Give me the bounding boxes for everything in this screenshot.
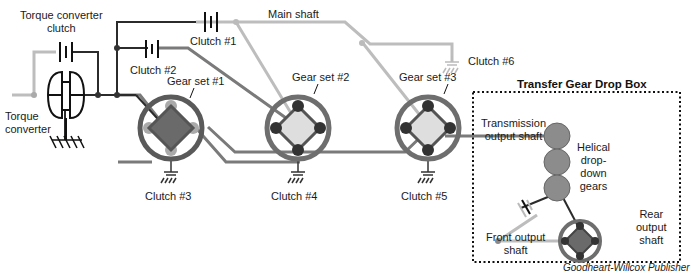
rear-output-gear-set: [560, 221, 600, 261]
torque-converter-label: Torque converter: [5, 110, 51, 136]
torque-converter-symbol: [48, 72, 84, 148]
helical-drop-down-gears: [544, 123, 570, 201]
gear-set-1-label: Gear set #1: [167, 75, 224, 88]
ground-symbols: [161, 161, 435, 183]
front-output-shaft-label: Front output shaft: [486, 231, 545, 257]
rear-output-shaft-label: Rear output shaft: [636, 208, 667, 247]
clutch-5-label: Clutch #5: [401, 190, 447, 203]
transmission-output-shaft-label: Transmission output shaft: [481, 117, 546, 143]
helical-gears-label: Helical drop- down gears: [577, 141, 610, 193]
clutch-6-label: Clutch #6: [468, 55, 514, 68]
clutch-3-label: Clutch #3: [145, 190, 191, 203]
transfer-box-title: Transfer Gear Drop Box: [517, 78, 647, 90]
gear-set-pointers: [190, 84, 448, 98]
torque-converter-clutch-label: Torque converter clutch: [20, 9, 103, 35]
gear-set-3: [397, 97, 459, 159]
transmission-schematic: [0, 0, 691, 273]
clutch-4-label: Clutch #4: [271, 190, 317, 203]
gear-set-2: [267, 97, 329, 159]
clutch-1-label: Clutch #1: [190, 35, 236, 48]
publisher-credit: Goodheart-Willcox Publisher: [563, 262, 690, 273]
gear-set-3-label: Gear set #3: [399, 71, 456, 84]
main-shaft-label: Main shaft: [268, 8, 319, 21]
gear-set-2-label: Gear set #2: [292, 71, 349, 84]
gear-set-1: [140, 97, 202, 159]
